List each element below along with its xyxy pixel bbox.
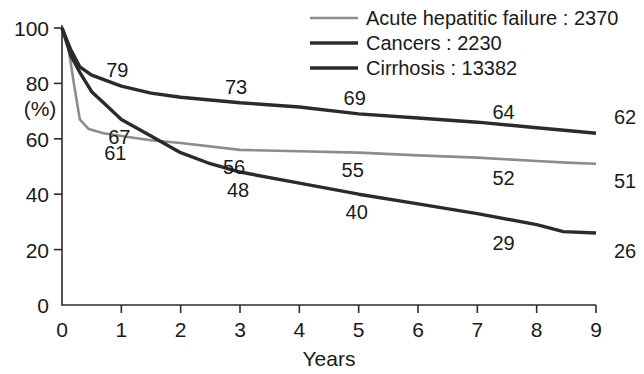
- data-point-label: 67: [108, 126, 130, 148]
- legend-label-cirrhosis: Cirrhosis : 13382: [366, 57, 517, 79]
- legend-label-cancers: Cancers : 2230: [366, 32, 502, 54]
- x-axis-tick-label: 6: [412, 318, 424, 341]
- legend-label-acute-hepatitic-failure: Acute hepatitic failure : 2370: [366, 7, 618, 29]
- x-axis-title: Years: [303, 347, 356, 370]
- data-point-label: 48: [227, 179, 249, 201]
- data-point-label: 55: [342, 159, 364, 181]
- data-point-label: 62: [614, 106, 636, 128]
- x-axis-tick-label: 7: [471, 318, 483, 341]
- data-point-label: 56: [223, 156, 245, 178]
- y-axis-tick-label: 60: [26, 128, 49, 151]
- y-axis-tick-label: 20: [26, 239, 49, 262]
- survival-curve-chart: 0204060801000123456789(%)Years6156555251…: [0, 0, 644, 374]
- data-point-label: 64: [492, 101, 514, 123]
- x-axis-tick-label: 5: [353, 318, 365, 341]
- y-axis-tick-label: 100: [14, 17, 49, 40]
- x-axis-tick-label: 4: [293, 318, 305, 341]
- x-axis-tick-label: 9: [590, 318, 602, 341]
- y-axis-tick-label: 0: [37, 294, 49, 317]
- data-point-label: 26: [614, 240, 636, 262]
- y-axis-tick-label: 80: [26, 72, 49, 95]
- x-axis-tick-label: 3: [234, 318, 246, 341]
- data-point-label: 69: [344, 87, 366, 109]
- data-point-label: 52: [492, 167, 514, 189]
- data-point-label: 40: [346, 201, 368, 223]
- series-line-acute-hepatitic-failure: [62, 28, 596, 164]
- data-point-label: 29: [492, 232, 514, 254]
- chart-canvas: 0204060801000123456789(%)Years6156555251…: [0, 0, 644, 374]
- data-point-label: 51: [614, 170, 636, 192]
- x-axis-tick-label: 2: [175, 318, 187, 341]
- y-axis-title: (%): [24, 97, 57, 120]
- y-axis-tick-label: 40: [26, 183, 49, 206]
- x-axis-tick-label: 1: [115, 318, 127, 341]
- data-point-label: 79: [106, 59, 128, 81]
- data-point-label: 73: [225, 76, 247, 98]
- x-axis-tick-label: 8: [531, 318, 543, 341]
- x-axis-tick-label: 0: [56, 318, 68, 341]
